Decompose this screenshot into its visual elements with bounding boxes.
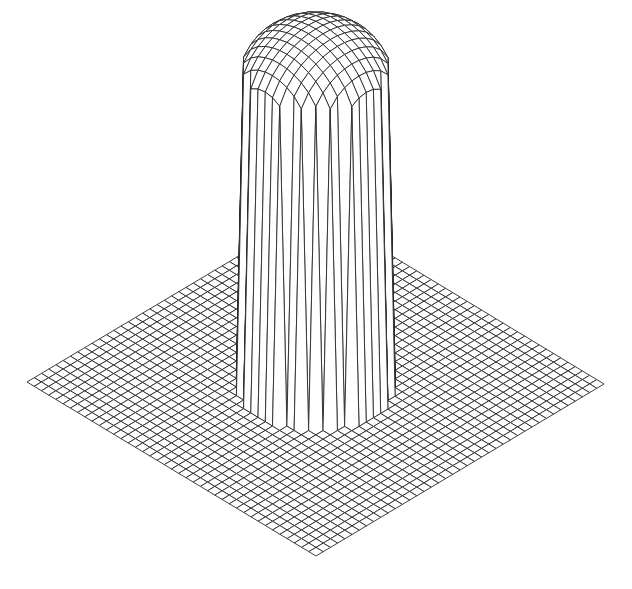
wireframe-mesh (27, 12, 604, 556)
surface-plot (0, 0, 632, 589)
